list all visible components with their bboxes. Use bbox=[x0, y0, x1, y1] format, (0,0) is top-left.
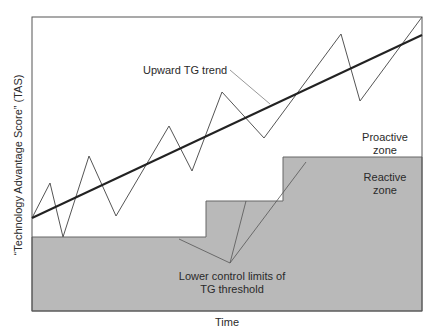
proactive-zone-label: Proactive zone bbox=[355, 131, 415, 157]
proactive-zone-line2: zone bbox=[355, 144, 415, 157]
lower-limits-line1: Lower control limits of bbox=[170, 270, 294, 283]
reactive-zone-label: Reactive zone bbox=[355, 171, 415, 197]
lower-limits-line2: TG threshold bbox=[170, 283, 294, 296]
trend-callout-line bbox=[230, 70, 270, 104]
x-axis-label: Time bbox=[207, 316, 247, 329]
reactive-zone-line2: zone bbox=[355, 184, 415, 197]
trend-label: Upward TG trend bbox=[143, 64, 227, 77]
lower-control-limits-label: Lower control limits of TG threshold bbox=[170, 270, 294, 296]
reactive-zone-line1: Reactive bbox=[355, 171, 415, 184]
y-axis-label: “Technology Advantage Score” (TAS) bbox=[12, 75, 24, 256]
proactive-zone-line1: Proactive bbox=[355, 131, 415, 144]
